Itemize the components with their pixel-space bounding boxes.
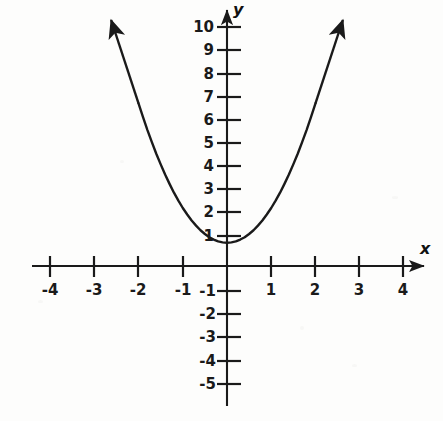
y-tick-label: 3: [204, 182, 214, 197]
y-tick-label: -1: [199, 284, 216, 299]
y-tick-label: 10: [193, 20, 214, 35]
y-tick-label: 1: [204, 229, 214, 244]
x-tick-label: -4: [42, 283, 59, 298]
y-tick-label: 8: [204, 67, 214, 82]
y-tick-label: 7: [204, 90, 214, 105]
y-tick-label: 9: [204, 43, 214, 58]
y-tick-label: 4: [204, 159, 214, 174]
x-axis-label: x: [420, 241, 430, 257]
y-tick-label: -5: [199, 377, 216, 392]
cartesian-plot: [0, 0, 443, 421]
y-axis-ticks: [217, 27, 241, 384]
y-tick-label: 2: [204, 205, 214, 220]
x-tick-label: 4: [398, 283, 408, 298]
graph-figure: 10 9 8 7 6 5 4 3 2 1 -1 -2 -3 -4 -5 -4 -…: [0, 0, 443, 421]
x-tick-label: 1: [266, 283, 276, 298]
x-tick-label: -3: [86, 283, 103, 298]
y-tick-label: 6: [204, 113, 214, 128]
x-tick-label: 3: [354, 283, 364, 298]
x-tick-label: -2: [130, 283, 147, 298]
y-axis: [217, 10, 241, 406]
y-tick-label: -2: [199, 307, 216, 322]
x-tick-label: 2: [310, 283, 320, 298]
y-tick-label: -3: [199, 330, 216, 345]
x-tick-label: -1: [175, 283, 192, 298]
y-tick-label: 5: [204, 136, 214, 151]
y-tick-label: -4: [199, 354, 216, 369]
y-axis-label: y: [233, 2, 243, 18]
